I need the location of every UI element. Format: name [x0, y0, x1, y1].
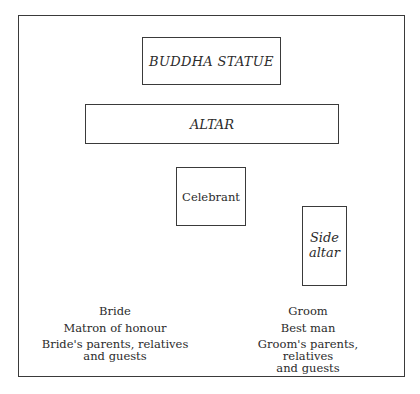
- bride-label: Bride: [40, 304, 190, 318]
- side-altar-label-line2: altar: [309, 246, 340, 261]
- buddha-statue-box: BUDDHA STATUE: [142, 37, 281, 85]
- side-altar-label-line1: Side: [309, 231, 340, 246]
- groom-label: Groom: [233, 304, 383, 318]
- buddha-statue-label: BUDDHA STATUE: [149, 54, 274, 69]
- altar-label: ALTAR: [190, 117, 234, 132]
- celebrant-box: Celebrant: [176, 167, 246, 226]
- celebrant-label: Celebrant: [182, 190, 240, 204]
- bride-guests-label-line2: and guests: [83, 349, 146, 363]
- bride-side-group: Bride Matron of honour Bride's parents, …: [40, 304, 190, 365]
- groom-guests-label-line1: Groom's parents, relatives: [258, 337, 358, 363]
- groom-guests-label-line2: and guests: [276, 361, 339, 375]
- side-altar-box: Side altar: [302, 206, 347, 286]
- best-man-label: Best man: [233, 321, 383, 335]
- matron-label: Matron of honour: [40, 321, 190, 335]
- groom-side-group: Groom Best man Groom's parents, relative…: [233, 304, 383, 377]
- altar-box: ALTAR: [85, 104, 339, 144]
